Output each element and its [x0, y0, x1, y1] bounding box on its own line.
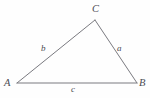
triangle-svg — [0, 0, 150, 98]
side-label-a: a — [117, 44, 122, 53]
vertex-label-a: A — [4, 78, 11, 89]
triangle-diagram: A B C a b c — [0, 0, 150, 98]
side-label-c: c — [71, 85, 75, 94]
side-a-line — [95, 20, 137, 83]
vertex-label-c: C — [92, 4, 99, 15]
vertex-label-b: B — [139, 78, 146, 89]
side-label-b: b — [41, 44, 46, 53]
side-b-line — [17, 20, 95, 83]
